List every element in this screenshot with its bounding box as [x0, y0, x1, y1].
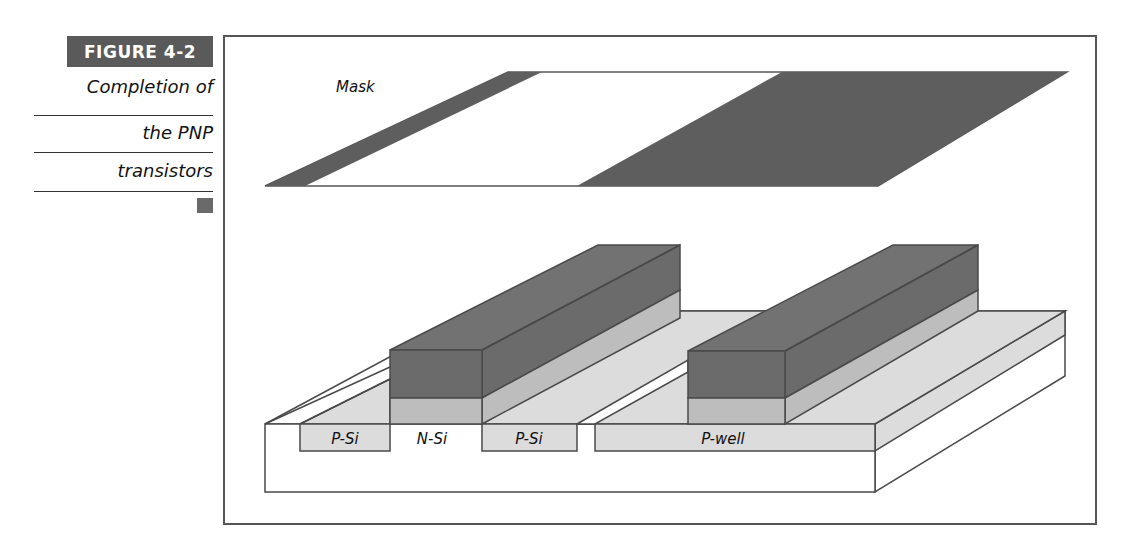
- mask: [265, 72, 1067, 186]
- mask-label: Mask: [336, 78, 376, 96]
- pnp-transistor-diagram: Mask: [0, 0, 1143, 537]
- p-si-left-label: P-Si: [331, 430, 359, 448]
- p-well-label: P-well: [701, 430, 745, 448]
- p-si-right-label: P-Si: [515, 430, 543, 448]
- n-si-label: N-Si: [417, 430, 448, 448]
